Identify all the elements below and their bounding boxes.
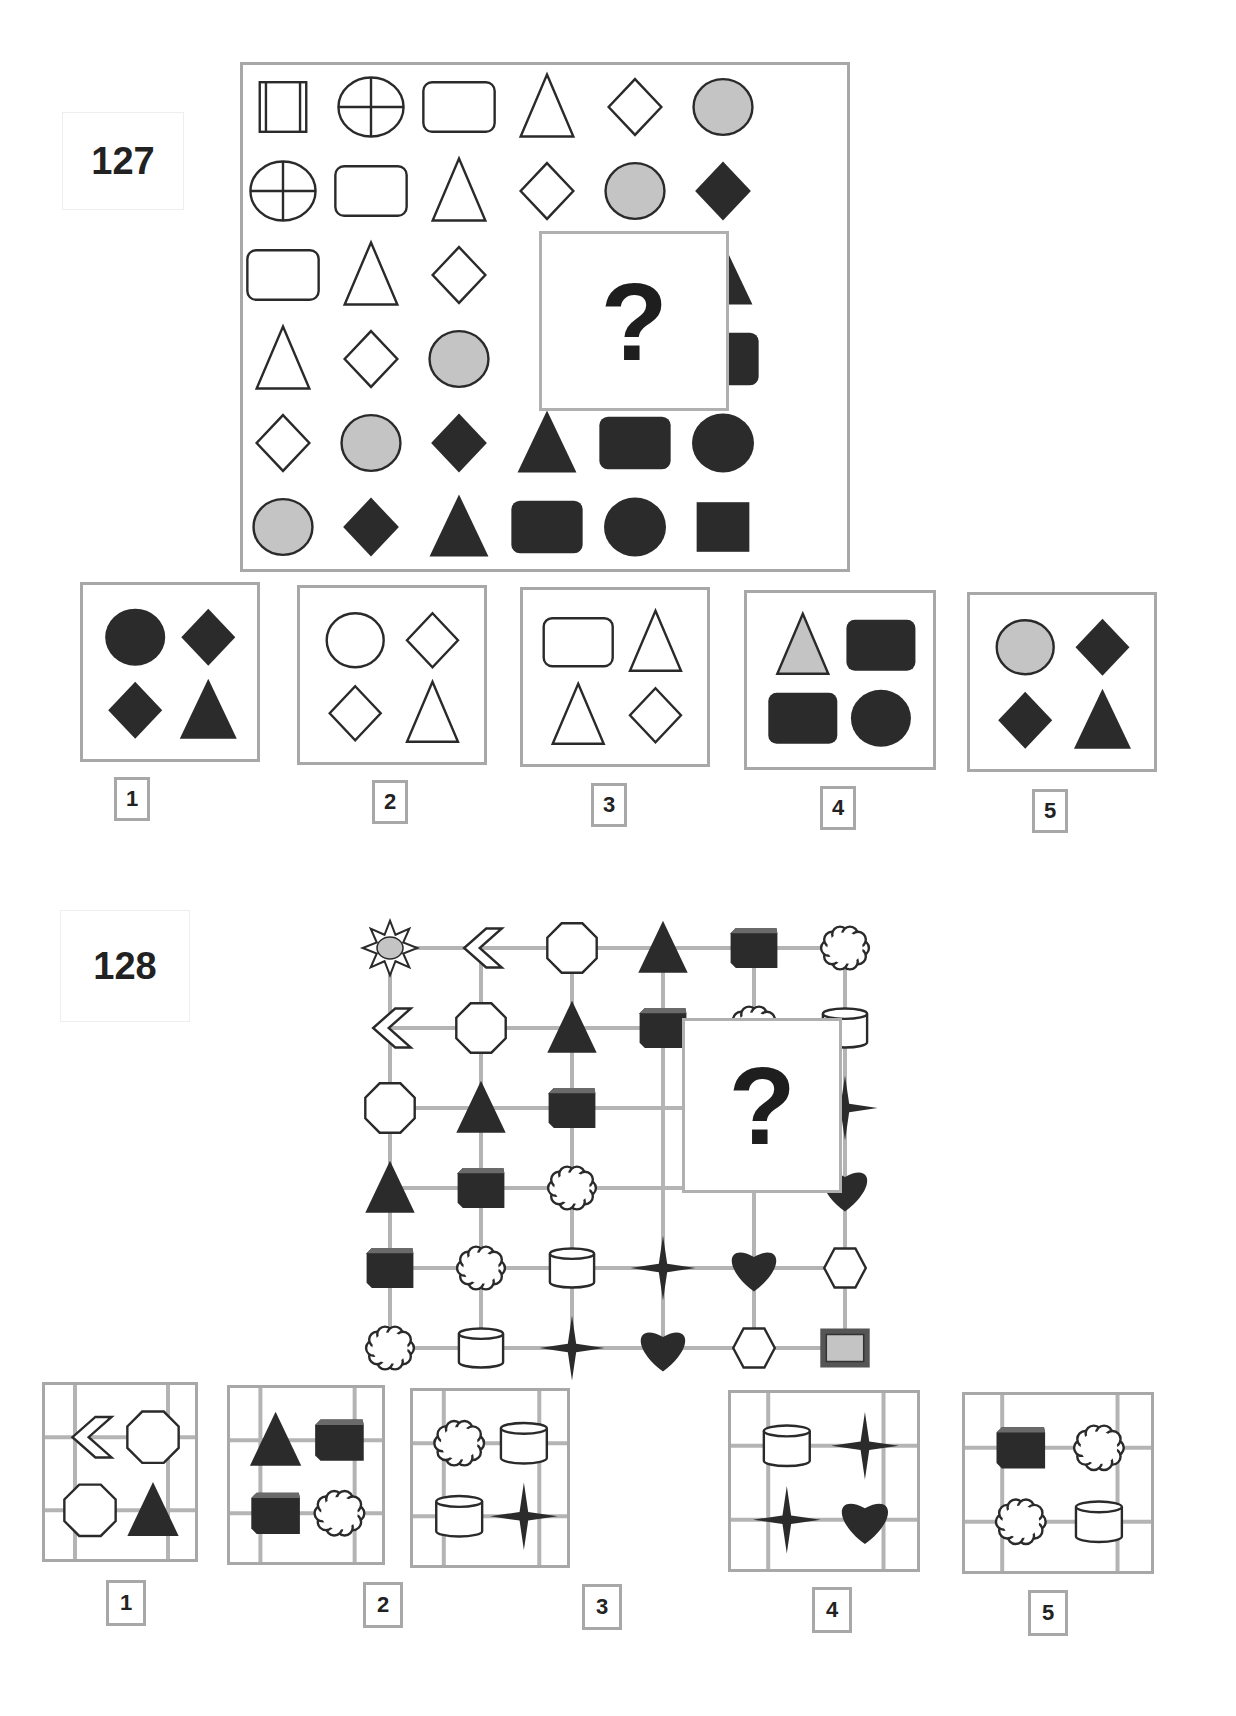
- circle-gray-icon: [430, 331, 489, 387]
- option-shapes: [523, 590, 707, 764]
- rounded-rect-icon: [247, 250, 318, 300]
- circle-gray-icon: [254, 499, 313, 555]
- circle-dark-icon: [604, 498, 666, 557]
- diamond-icon: [407, 613, 458, 667]
- circle-gray-icon: [606, 163, 665, 219]
- option-127-2[interactable]: [297, 585, 487, 765]
- question-mark: ?: [600, 258, 667, 385]
- option-127-3-label[interactable]: 3: [591, 783, 627, 827]
- option-shapes: [747, 593, 933, 767]
- puzzle-127-matrix: ?: [240, 62, 850, 572]
- triangle-icon: [433, 158, 486, 220]
- option-127-5[interactable]: [967, 592, 1157, 772]
- option-127-1-label[interactable]: 1: [114, 777, 150, 821]
- option-shapes: [970, 595, 1154, 769]
- star4-icon: [631, 1236, 696, 1301]
- option-128-3[interactable]: [410, 1388, 570, 1568]
- cloud-icon: [1074, 1426, 1124, 1470]
- cube-icon: [997, 1427, 1046, 1468]
- cube-icon: [640, 1008, 687, 1048]
- triangle-dark-icon: [1074, 689, 1131, 749]
- diamond-dark-icon: [431, 414, 487, 473]
- frame-gray-icon: [820, 1329, 869, 1368]
- cloud-icon: [457, 1247, 505, 1290]
- circle-gray-icon: [997, 620, 1054, 674]
- option-shapes: [413, 1391, 567, 1565]
- cloud-icon: [366, 1327, 414, 1370]
- circle-dark-icon: [105, 609, 165, 666]
- diamond-dark-icon: [695, 162, 751, 221]
- option-shapes: [83, 585, 257, 759]
- option-shapes: [45, 1385, 195, 1559]
- cylinder-icon: [1076, 1501, 1122, 1541]
- triangle-icon: [345, 242, 398, 304]
- option-128-1-label[interactable]: 1: [106, 1580, 146, 1626]
- option-shapes: [230, 1388, 382, 1562]
- cylinder-icon: [459, 1329, 503, 1368]
- cube-icon: [458, 1168, 505, 1208]
- circle-gray-icon: [342, 415, 401, 471]
- triangle-icon: [407, 682, 458, 742]
- question-number-127: 127: [62, 112, 184, 210]
- diamond-icon: [433, 247, 486, 303]
- diamond-dark-icon: [998, 692, 1052, 749]
- triangle-gray-icon: [777, 614, 828, 674]
- diamond-dark-icon: [181, 609, 235, 666]
- option-128-5-label[interactable]: 5: [1028, 1590, 1068, 1636]
- diamond-icon: [345, 331, 398, 387]
- option-128-1[interactable]: [42, 1382, 198, 1562]
- octagon-icon: [64, 1485, 115, 1536]
- option-127-4-label[interactable]: 4: [820, 786, 856, 830]
- option-shapes: [731, 1393, 917, 1569]
- rounded-rect-dark-icon: [511, 501, 582, 554]
- option-127-1[interactable]: [80, 582, 260, 762]
- square-double-bars-icon: [260, 82, 307, 132]
- triangle-icon: [553, 684, 604, 744]
- option-128-4-label[interactable]: 4: [812, 1587, 852, 1633]
- octagon-icon: [547, 923, 596, 972]
- diamond-dark-icon: [108, 682, 162, 739]
- option-127-3[interactable]: [520, 587, 710, 767]
- star4-icon: [831, 1412, 899, 1480]
- hexagon-icon: [824, 1249, 866, 1288]
- cube-icon: [367, 1248, 414, 1288]
- diamond-icon: [521, 163, 574, 219]
- cloud-icon: [548, 1167, 596, 1210]
- cylinder-icon: [764, 1426, 810, 1467]
- cube-icon: [549, 1088, 596, 1128]
- star4-icon: [490, 1483, 558, 1551]
- circle-gray-icon: [694, 79, 753, 135]
- option-127-4[interactable]: [744, 590, 936, 770]
- cloud-icon: [315, 1491, 365, 1535]
- puzzle-128-shapes: [360, 880, 980, 1350]
- triangle-dark-icon: [180, 679, 237, 739]
- option-127-2-label[interactable]: 2: [372, 780, 408, 824]
- question-number-128: 128: [60, 910, 190, 1022]
- star4-icon: [540, 1316, 605, 1381]
- option-128-4[interactable]: [728, 1390, 920, 1572]
- rounded-rect-icon: [335, 166, 406, 216]
- cloud-icon: [996, 1499, 1046, 1543]
- puzzle-128-matrix: ?: [360, 880, 980, 1350]
- octagon-icon: [365, 1083, 414, 1132]
- sun-icon: [363, 921, 418, 976]
- circle-cross-icon: [338, 78, 403, 137]
- cylinder-icon: [436, 1496, 482, 1537]
- diamond-icon: [609, 79, 662, 135]
- triangle-icon: [257, 326, 310, 388]
- triangle-icon: [630, 611, 681, 671]
- option-128-5[interactable]: [962, 1392, 1154, 1574]
- option-127-5-label[interactable]: 5: [1032, 789, 1068, 833]
- octagon-icon: [127, 1412, 178, 1463]
- diamond-dark-icon: [1075, 619, 1129, 676]
- missing-piece-box: ?: [539, 231, 729, 411]
- option-128-2-label[interactable]: 2: [363, 1582, 403, 1628]
- option-shapes: [965, 1395, 1151, 1571]
- option-128-2[interactable]: [227, 1385, 385, 1565]
- triangle-dark-icon: [430, 494, 489, 556]
- circle-dark-icon: [692, 414, 754, 473]
- option-128-3-label[interactable]: 3: [582, 1584, 622, 1630]
- circle-cross-icon: [250, 162, 315, 221]
- cloud-icon: [434, 1421, 484, 1465]
- rounded-rect-icon: [423, 82, 494, 132]
